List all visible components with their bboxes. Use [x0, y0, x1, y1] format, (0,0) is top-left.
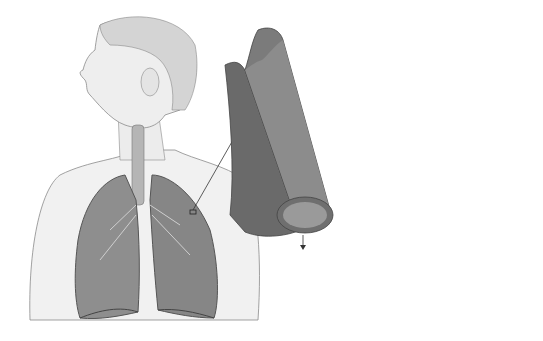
normal-airway-tube: [225, 28, 333, 250]
human-figure: [30, 17, 260, 320]
asthma-illustration: [0, 0, 543, 341]
